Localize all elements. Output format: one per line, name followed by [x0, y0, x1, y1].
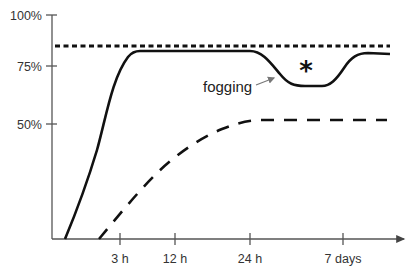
y-tick-label-75: 75% — [17, 60, 42, 74]
x-tick-label-3h: 3 h — [111, 252, 128, 266]
x-tick-label-12h: 12 h — [163, 252, 187, 266]
dashed-curve — [99, 120, 387, 239]
x-axis: 3 h 12 h 24 h 7 days — [52, 233, 404, 266]
fogging-arrow-icon — [256, 78, 274, 85]
chart-canvas: 100% 75% 50% 3 h 12 h 24 h 7 days foggin… — [0, 0, 413, 276]
y-axis: 100% 75% 50% — [10, 9, 57, 239]
x-tick-label-24h: 24 h — [238, 252, 262, 266]
fogging-label: fogging — [203, 78, 252, 95]
x-tick-label-7days: 7 days — [325, 252, 362, 266]
y-tick-label-100: 100% — [10, 9, 42, 23]
y-tick-label-50: 50% — [17, 118, 42, 132]
asterisk-marker: * — [299, 56, 313, 86]
